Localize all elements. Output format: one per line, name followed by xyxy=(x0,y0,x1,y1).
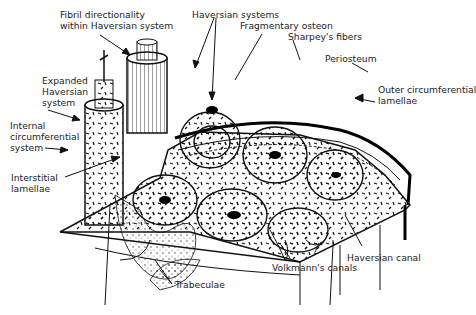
label-line: Interstitial xyxy=(11,172,58,183)
label-interstitial-lamellae: Interstitial lamellae xyxy=(11,172,58,194)
label-expanded-haversian-system: Expanded Haversian system xyxy=(42,75,88,108)
label-line: lamellae xyxy=(378,95,476,106)
label-line: system xyxy=(10,142,79,153)
bone-illustration xyxy=(0,0,476,315)
label-line: Outer circumferential xyxy=(378,84,476,95)
label-internal-circumferential-system: Internal circumferential system xyxy=(10,120,79,153)
label-outer-circumferential-lamellae: Outer circumferential lamellae xyxy=(378,84,476,106)
label-line: Expanded xyxy=(42,75,88,86)
label-line: lamellae xyxy=(11,183,58,194)
label-line: circumferential xyxy=(10,131,79,142)
label-line: within Haversian system xyxy=(60,20,173,31)
label-sharpeys-fibers: Sharpey's fibers xyxy=(288,31,362,42)
label-fragmentary-osteon: Fragmentary osteon xyxy=(240,20,333,31)
label-periosteum: Periosteum xyxy=(325,53,377,64)
label-haversian-systems: Haversian systems xyxy=(192,9,279,20)
label-line: system xyxy=(42,97,88,108)
label-trabeculae: Trabeculae xyxy=(175,279,225,290)
label-haversian-canal: Haversian canal xyxy=(347,252,421,263)
label-volkmanns-canals: Volkmann's canals xyxy=(272,262,357,273)
label-line: Fibril directionality xyxy=(60,9,173,20)
label-fibril-directionality: Fibril directionality within Haversian s… xyxy=(60,9,173,31)
label-line: Internal xyxy=(10,120,79,131)
label-line: Haversian xyxy=(42,86,88,97)
